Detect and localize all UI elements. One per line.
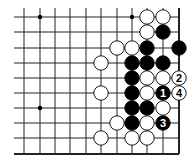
go-board: 2143 <box>0 0 196 168</box>
white-stone-icon <box>140 71 154 85</box>
white-stone-icon <box>125 41 139 55</box>
black-stone <box>140 41 154 55</box>
white-stone <box>156 101 170 115</box>
black-stone <box>125 101 139 115</box>
black-stone-icon <box>140 56 154 70</box>
white-stone <box>140 10 154 24</box>
white-stone: 2 <box>172 71 186 85</box>
white-stone <box>140 116 154 130</box>
white-stone-icon <box>94 56 108 70</box>
white-stone <box>110 116 124 130</box>
black-stone-icon <box>125 101 139 115</box>
black-stone-icon <box>156 25 170 39</box>
move-number-label: 2 <box>176 72 182 84</box>
white-stone <box>94 86 108 100</box>
white-stone-icon <box>140 116 154 130</box>
star-point-icon <box>38 15 42 19</box>
black-stone <box>140 56 154 70</box>
white-stone-icon <box>156 10 170 24</box>
white-stone-icon <box>94 86 108 100</box>
white-stone-icon <box>140 25 154 39</box>
black-stone-icon <box>125 56 139 70</box>
white-stone-icon <box>94 131 108 145</box>
white-stone <box>110 41 124 55</box>
white-stone-icon <box>140 10 154 24</box>
black-stone <box>172 41 186 55</box>
black-stone <box>125 56 139 70</box>
white-stone-icon <box>110 41 124 55</box>
white-stone <box>94 131 108 145</box>
white-stone-icon <box>140 86 154 100</box>
white-stone-icon <box>110 116 124 130</box>
white-stone <box>156 71 170 85</box>
move-number-label: 3 <box>160 117 166 129</box>
white-stone: 4 <box>172 86 186 100</box>
move-number-label: 4 <box>176 87 183 99</box>
black-stone <box>156 25 170 39</box>
black-stone <box>156 56 170 70</box>
black-stone: 3 <box>156 116 170 130</box>
white-stone-icon <box>125 131 139 145</box>
black-stone <box>140 101 154 115</box>
white-stone-icon <box>156 101 170 115</box>
black-stone-icon <box>125 86 139 100</box>
black-stone-icon <box>125 71 139 85</box>
star-point-icon <box>130 15 134 19</box>
black-stone-icon <box>125 116 139 130</box>
white-stone <box>140 71 154 85</box>
white-stone <box>94 56 108 70</box>
black-stone <box>125 86 139 100</box>
white-stone-icon <box>156 71 170 85</box>
black-stone <box>125 71 139 85</box>
black-stone: 1 <box>156 86 170 100</box>
black-stone <box>125 116 139 130</box>
white-stone <box>125 131 139 145</box>
black-stone-icon <box>172 41 186 55</box>
star-point-icon <box>38 106 42 110</box>
white-stone <box>156 10 170 24</box>
black-stone-icon <box>140 41 154 55</box>
white-stone <box>140 25 154 39</box>
black-stone-icon <box>140 101 154 115</box>
white-stone <box>125 41 139 55</box>
white-stone-icon <box>140 131 154 145</box>
white-stone <box>140 131 154 145</box>
move-number-label: 1 <box>160 87 166 99</box>
black-stone-icon <box>156 56 170 70</box>
white-stone <box>140 86 154 100</box>
